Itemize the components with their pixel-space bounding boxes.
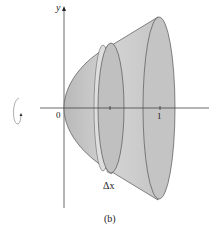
y-axis-arrow (62, 6, 66, 11)
figure-caption: (b) (104, 213, 116, 224)
rotation-arrow-icon (13, 98, 21, 124)
solid-of-revolution-diagram (0, 0, 209, 232)
slice-width-label: Δx (103, 180, 114, 191)
origin-label: 0 (56, 110, 61, 120)
x-tick-label-1: 1 (157, 111, 162, 121)
y-axis-label: y (56, 2, 60, 13)
